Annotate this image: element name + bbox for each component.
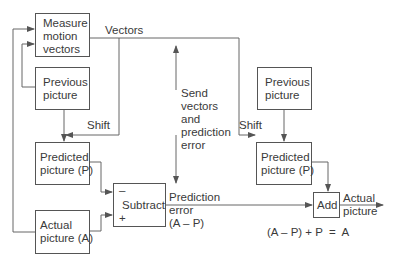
decoder-shift-label: Shift <box>239 119 262 132</box>
actual-to-subtract-line <box>89 215 112 231</box>
vectors-label: Vectors <box>105 24 143 37</box>
predicted-picture-box: Predicted picture (P) <box>35 142 90 185</box>
minus-sign: – <box>119 184 125 197</box>
add-box: Add <box>313 192 340 218</box>
reconstruction-equation: (A – P) + P = A <box>267 226 349 239</box>
actual-picture-output-label: Actual picture <box>343 192 378 218</box>
send-vectors-label: Send vectors and prediction error <box>181 87 231 152</box>
previous-to-measure-line <box>22 44 35 87</box>
actual-to-measure-line <box>13 29 35 232</box>
subtract-label: Subtract <box>122 199 165 212</box>
actual-picture-box: Actual picture (A) <box>35 210 90 254</box>
decoder-previous-picture-box: Previous picture <box>257 67 312 110</box>
plus-sign: + <box>119 212 126 225</box>
previous-picture-box: Previous picture <box>35 67 90 110</box>
measure-motion-vectors-box: Measure motion vectors <box>35 13 90 57</box>
prediction-error-label: Prediction error (A – P) <box>169 191 220 230</box>
decoder-predicted-picture-box: Predicted picture (P) <box>256 142 312 185</box>
subtract-box: – Subtract + <box>113 183 166 227</box>
encoder-shift-label: Shift <box>87 119 110 132</box>
